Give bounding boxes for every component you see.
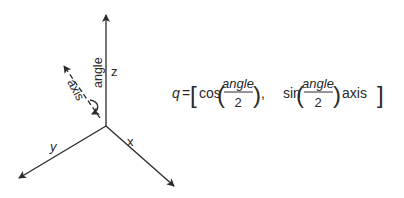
formula-lhs: q [172,85,180,101]
formula-denominator-1: 2 [234,95,241,110]
formula-close-paren-1: ) [253,81,261,108]
quaternion-diagram: z x y angle axis q = [ cos ( angle 2 ) ,… [0,0,404,198]
coordinate-axes [19,15,174,186]
formula-close-bracket: ] [377,81,384,108]
y-axis-label: y [49,139,58,154]
x-axis [106,126,174,186]
quaternion-formula: q = [ cos ( angle 2 ) , sin ( angle 2 ) … [172,76,384,110]
formula-numerator-2: angle [302,76,334,91]
formula-denominator-2: 2 [314,95,321,110]
formula-equals: = [182,85,190,101]
formula-comma: , [261,85,265,101]
formula-open-bracket: [ [190,81,197,108]
rotation-arc-icon [90,100,98,114]
x-axis-label: x [127,134,134,149]
angle-label: angle [91,57,105,88]
formula-numerator-1: angle [222,76,254,91]
rotation-axis-label: axis [64,77,87,103]
y-axis [19,126,106,178]
formula-close-paren-2: ) [333,81,341,108]
formula-axis: axis [342,85,367,101]
z-axis-label: z [111,64,118,79]
